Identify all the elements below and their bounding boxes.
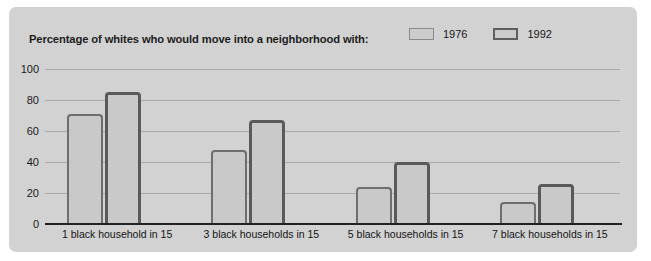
chart-figure: Percentage of whites who would move into…	[9, 7, 637, 252]
bar-1992-2[interactable]	[249, 120, 285, 224]
bar-1992-3[interactable]	[394, 162, 430, 224]
bar-1976-1[interactable]	[67, 114, 103, 224]
legend-item-1992[interactable]: 1992	[493, 28, 551, 40]
legend-swatch-1976	[409, 28, 434, 40]
bar-1976-4[interactable]	[500, 202, 536, 224]
bar-group	[356, 69, 432, 224]
x-axis-label: 5 black households in 15	[334, 228, 478, 240]
legend-label-1976: 1976	[443, 28, 467, 40]
bar-1976-2[interactable]	[211, 150, 247, 224]
y-axis: 020406080100	[9, 69, 39, 224]
y-axis-tick-label: 60	[9, 125, 39, 137]
chart-header: Percentage of whites who would move into…	[9, 7, 637, 59]
legend-item-1976[interactable]: 1976	[409, 28, 467, 40]
legend-label-1992: 1992	[527, 28, 551, 40]
y-axis-tick-label: 20	[9, 187, 39, 199]
y-axis-tick-label: 0	[9, 218, 39, 230]
x-axis-line	[45, 223, 622, 225]
bar-1992-4[interactable]	[538, 184, 574, 224]
chart-title: Percentage of whites who would move into…	[29, 33, 368, 45]
y-axis-tick-label: 80	[9, 94, 39, 106]
bar-group	[211, 69, 287, 224]
y-axis-tick-label: 100	[9, 63, 39, 75]
bar-1976-3[interactable]	[356, 187, 392, 224]
x-axis-labels: 1 black household in 153 black household…	[45, 228, 622, 248]
x-axis-label: 7 black households in 15	[478, 228, 622, 240]
x-axis-label: 1 black household in 15	[45, 228, 189, 240]
x-axis-label: 3 black households in 15	[189, 228, 333, 240]
bar-group	[67, 69, 143, 224]
bars-layer	[45, 69, 622, 224]
bar-group	[500, 69, 576, 224]
legend-swatch-1992	[493, 28, 518, 40]
chart-legend: 1976 1992	[409, 28, 552, 40]
bar-1992-1[interactable]	[105, 92, 141, 224]
y-axis-tick-label: 40	[9, 156, 39, 168]
